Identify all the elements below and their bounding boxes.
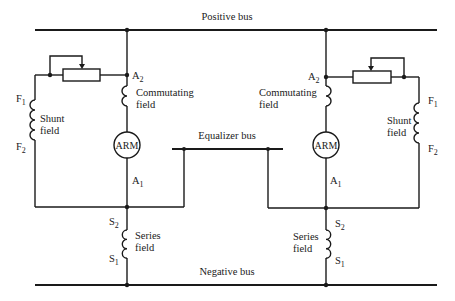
right-rheostat	[353, 71, 391, 83]
compound-generators-parallel-diagram: Positive bus Negative bus Equalizer bus …	[0, 0, 455, 301]
left-series-label-1: Series	[135, 230, 161, 241]
left-shunt-field-coil	[30, 100, 35, 140]
right-series-label-1: Series	[293, 231, 319, 242]
left-shunt-label-1: Shunt	[40, 113, 65, 124]
left-a1-label: A1	[132, 175, 144, 189]
right-commutating-label-2: field	[259, 99, 279, 110]
right-commutating-label-1: Commutating	[259, 87, 318, 98]
right-generator: ARM A2 Commutating field A1 F1 F2 Shunt …	[259, 28, 438, 287]
right-series-field-coil	[326, 230, 331, 258]
right-armature-label: ARM	[315, 140, 338, 151]
right-a1-label: A1	[330, 175, 342, 189]
right-commutating-field-coil	[326, 86, 331, 106]
left-a2-label: A2	[132, 70, 144, 84]
equalizer-bus: Equalizer bus	[172, 130, 283, 151]
left-generator: ARM A2 Commutating field A1 F1 F2 Shunt …	[16, 28, 195, 287]
right-series-label-2: field	[293, 243, 313, 254]
negative-bus-label: Negative bus	[199, 266, 254, 277]
right-f2-label: F2	[428, 143, 438, 157]
left-rheostat	[63, 69, 100, 81]
right-f1-label: F1	[428, 95, 438, 109]
left-f2-label: F2	[16, 141, 26, 155]
positive-bus: Positive bus	[35, 11, 437, 30]
left-armature-label: ARM	[116, 140, 139, 151]
left-commutating-label-1: Commutating	[136, 87, 195, 98]
left-s2-label: S2	[109, 216, 119, 230]
equalizer-bus-label: Equalizer bus	[198, 130, 255, 141]
left-f1-label: F1	[16, 93, 26, 107]
left-commutating-field-coil	[122, 86, 127, 106]
right-s2-label: S2	[335, 218, 345, 232]
right-shunt-label-2: field	[387, 127, 407, 138]
right-shunt-label-1: Shunt	[387, 115, 412, 126]
right-a2-label: A2	[308, 71, 320, 85]
left-series-label-2: field	[135, 242, 155, 253]
positive-bus-label: Positive bus	[201, 11, 252, 22]
left-shunt-label-2: field	[40, 125, 60, 136]
right-s1-label: S1	[335, 255, 345, 269]
right-shunt-field-coil	[414, 103, 419, 143]
left-series-field-coil	[122, 230, 127, 258]
negative-bus: Negative bus	[35, 266, 437, 285]
left-s1-label: S1	[109, 253, 119, 267]
left-commutating-label-2: field	[136, 99, 156, 110]
